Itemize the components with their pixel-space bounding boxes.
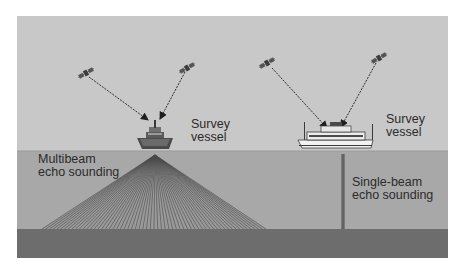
single-beam-highlight [343,154,344,229]
singlebeam-label-line1: Single-beam [352,175,422,189]
left-vessel-label-line2: vessel [191,130,226,144]
left-vessel-label-line1: Survey [191,117,231,131]
seabed-layer [17,229,448,258]
diagram-frame: Survey vessel Survey vessel Multibeam ec… [17,16,448,258]
right-vessel-label-line1: Survey [386,112,426,126]
multibeam-label-line1: Multibeam [38,152,96,166]
singlebeam-label-line2: echo sounding [352,188,433,202]
multibeam-label-line2: echo sounding [38,165,119,179]
sky-layer [17,16,448,151]
right-vessel-label-line2: vessel [386,125,421,139]
diagram-canvas: Survey vessel Survey vessel Multibeam ec… [17,16,448,258]
